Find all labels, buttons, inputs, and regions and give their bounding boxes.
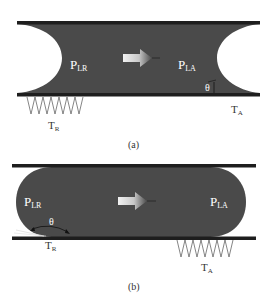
top-wall — [17, 21, 260, 25]
receding-tension-spring — [27, 97, 83, 114]
top-wall — [12, 164, 256, 168]
panel-b-caption: (b) — [128, 281, 140, 293]
angle-theta-label: θ — [205, 82, 210, 93]
panel-a: PLR PLA θ TR TA (a) — [17, 21, 260, 151]
bottom-wall — [17, 93, 260, 97]
advancing-tension-label: TA — [231, 103, 243, 117]
panel-a-caption: (a) — [128, 139, 139, 151]
receding-tension-label: TR — [45, 239, 57, 253]
liquid-plug-diagram: PLR PLA θ TR TA (a) — [0, 0, 272, 303]
panel-b: PLR PLA θ TR TA (b) — [12, 164, 256, 293]
angle-theta-label: θ — [49, 216, 54, 227]
advancing-tension-label: TA — [201, 261, 213, 275]
advancing-tension-spring — [177, 240, 233, 257]
receding-tension-label: TR — [48, 119, 60, 133]
